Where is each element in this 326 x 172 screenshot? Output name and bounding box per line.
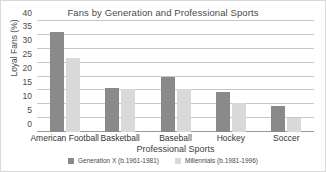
bar <box>177 89 191 132</box>
y-axis-tick-label: 10 <box>23 92 32 101</box>
bar <box>105 88 119 132</box>
bar <box>232 103 246 132</box>
y-axis-tick-label: 15 <box>23 78 32 87</box>
y-axis-tick-label: 40 <box>23 8 32 17</box>
legend-entry[interactable]: Millennials (b.1981-1996) <box>175 157 258 164</box>
x-axis-title: Professional Sports <box>37 144 314 154</box>
bar <box>161 77 175 133</box>
plot-area: 0510152025303540 <box>37 21 314 132</box>
bar <box>50 32 64 132</box>
y-axis-tick-label: 25 <box>23 50 32 59</box>
y-axis-tick-label: 5 <box>27 105 32 114</box>
y-axis-tick-label: 35 <box>23 22 32 31</box>
x-axis-tick-label: Soccer <box>273 133 299 143</box>
chart-legend: Generation X (b.1961-1981)Millennials (b… <box>1 157 325 164</box>
y-axis-tick-label: 0 <box>27 119 32 128</box>
y-axis-title: Loyal Fans (%) <box>9 10 19 86</box>
bar <box>66 58 80 132</box>
legend-label: Generation X (b.1961-1981) <box>78 157 159 164</box>
x-axis-tick-label: Baseball <box>159 133 192 143</box>
y-axis-tick-label: 30 <box>23 36 32 45</box>
legend-entry[interactable]: Generation X (b.1961-1981) <box>68 157 159 164</box>
bar-chart: Fans by Generation and Professional Spor… <box>0 0 326 172</box>
y-axis-tick-label: 20 <box>23 64 32 73</box>
x-axis-tick-label: Hockey <box>217 133 245 143</box>
legend-swatch-icon <box>68 158 74 164</box>
x-axis-tick-label: Basketball <box>100 133 139 143</box>
legend-swatch-icon <box>175 158 181 164</box>
bar <box>216 92 230 132</box>
bar <box>121 89 135 132</box>
bar <box>271 106 285 132</box>
x-axis-tick-label: American Football <box>30 133 99 143</box>
legend-label: Millennials (b.1981-1996) <box>185 157 258 164</box>
bar <box>287 118 301 132</box>
chart-title: Fans by Generation and Professional Spor… <box>1 7 325 18</box>
bars-layer <box>37 21 314 132</box>
